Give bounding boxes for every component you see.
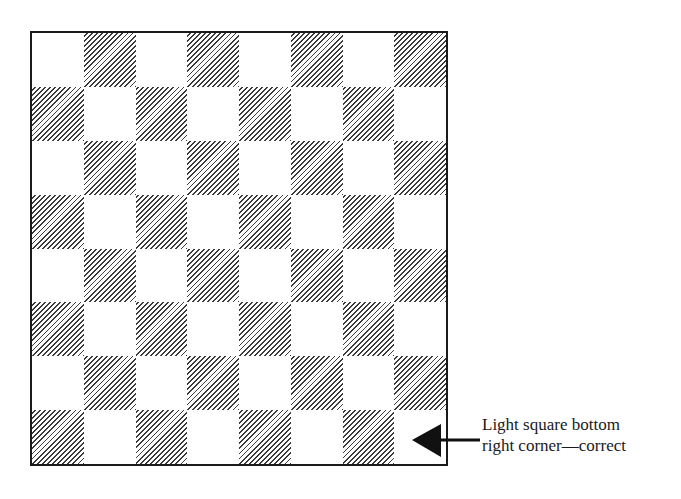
light-square [343,356,395,410]
light-square [136,356,188,410]
annotation-line-1: Light square bottom [482,414,626,435]
dark-square [343,302,395,356]
dark-square [291,249,343,303]
dark-square [32,195,84,249]
dark-square [343,87,395,141]
light-square [394,87,446,141]
dark-square [187,249,239,303]
light-square [343,249,395,303]
dark-square [84,249,136,303]
light-square [291,302,343,356]
light-square [136,249,188,303]
dark-square [343,410,395,464]
dark-square [394,249,446,303]
dark-square [394,356,446,410]
light-square [187,410,239,464]
dark-square [136,195,188,249]
light-square [343,141,395,195]
dark-square [291,141,343,195]
dark-square [32,302,84,356]
dark-square [32,410,84,464]
light-square [32,33,84,87]
dark-square [291,33,343,87]
light-square [187,302,239,356]
light-square [394,302,446,356]
light-square [84,195,136,249]
light-square [291,87,343,141]
dark-square [239,195,291,249]
dark-square [187,33,239,87]
dark-square [239,302,291,356]
light-square [32,249,84,303]
light-square [84,87,136,141]
dark-square [394,33,446,87]
light-square [291,410,343,464]
light-square [32,141,84,195]
light-square [136,141,188,195]
dark-square [187,141,239,195]
dark-square [136,410,188,464]
light-square [291,195,343,249]
dark-square [239,410,291,464]
light-square [187,195,239,249]
light-square [32,356,84,410]
dark-square [343,195,395,249]
light-square [239,249,291,303]
dark-square [291,356,343,410]
dark-square [136,302,188,356]
light-square [239,33,291,87]
dark-square [239,87,291,141]
dark-square [84,356,136,410]
light-square [239,356,291,410]
light-square [136,33,188,87]
light-square [394,195,446,249]
chessboard [30,31,448,466]
light-square [84,410,136,464]
light-square [84,302,136,356]
arrow-left-icon [410,420,482,460]
light-square [343,33,395,87]
annotation-label: Light square bottom right corner—correct [482,414,626,456]
dark-square [187,356,239,410]
light-square [239,141,291,195]
dark-square [136,87,188,141]
annotation-line-2: right corner—correct [482,435,626,456]
dark-square [84,141,136,195]
dark-square [84,33,136,87]
light-square [187,87,239,141]
dark-square [394,141,446,195]
dark-square [32,87,84,141]
